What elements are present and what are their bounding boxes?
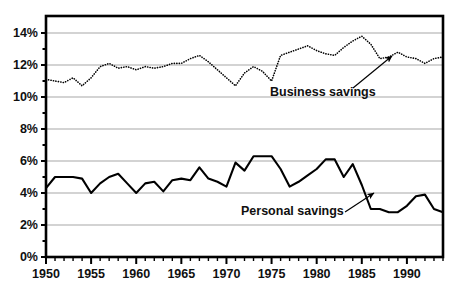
personal-savings-annotation-label: Personal savings: [241, 204, 344, 218]
plot-background: [46, 16, 443, 257]
y-tick-label-6%: 6%: [20, 154, 38, 168]
y-axis: 0%2%4%6%8%10%12%14%: [13, 26, 46, 264]
y-tick-label-10%: 10%: [13, 90, 38, 104]
x-tick-label-1955: 1955: [77, 267, 105, 281]
x-tick-label-1950: 1950: [32, 267, 60, 281]
y-tick-label-8%: 8%: [20, 122, 38, 136]
x-tick-label-1975: 1975: [258, 267, 286, 281]
y-tick-label-0%: 0%: [20, 250, 38, 264]
partial-title-text: [70, 0, 400, 5]
x-tick-label-1990: 1990: [393, 267, 421, 281]
savings-rate-chart-figure: 0%2%4%6%8%10%12%14% 19501955196019651970…: [0, 0, 460, 293]
y-tick-label-12%: 12%: [13, 58, 38, 72]
x-axis: 195019551960196519701975198019851990: [32, 257, 443, 281]
x-tick-label-1965: 1965: [167, 267, 195, 281]
business-savings-annotation-label: Business savings: [270, 85, 376, 99]
y-tick-label-4%: 4%: [20, 186, 38, 200]
y-tick-label-2%: 2%: [20, 218, 38, 232]
x-tick-label-1960: 1960: [122, 267, 150, 281]
x-tick-label-1985: 1985: [348, 267, 376, 281]
x-tick-label-1970: 1970: [213, 267, 241, 281]
y-tick-label-14%: 14%: [13, 26, 38, 40]
chart-canvas: 0%2%4%6%8%10%12%14% 19501955196019651970…: [0, 0, 460, 293]
x-tick-label-1980: 1980: [303, 267, 331, 281]
